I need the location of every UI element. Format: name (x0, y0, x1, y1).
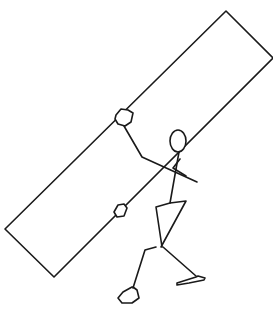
left-leg (133, 247, 156, 288)
right-leg (163, 247, 196, 276)
right-foot (177, 276, 205, 285)
torso-back (156, 203, 170, 247)
upper-hand (115, 109, 133, 126)
left-foot (118, 287, 139, 303)
head (170, 130, 186, 152)
stick-figure-drawing (0, 0, 273, 317)
lower-hand (114, 204, 127, 217)
board (5, 11, 273, 277)
arm-upper (124, 126, 197, 182)
drawing-canvas (0, 0, 273, 317)
